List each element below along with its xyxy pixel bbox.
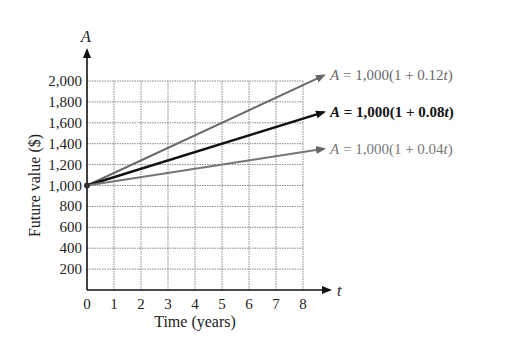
x-axis-label: Time (years) <box>154 313 236 331</box>
y-tick-label: 2,000 <box>48 73 82 89</box>
x-tick-label: 7 <box>272 296 280 312</box>
y-tick-label: 1,600 <box>48 115 82 131</box>
y-tick-label: 1,400 <box>48 136 82 152</box>
x-tick-label: 2 <box>137 296 145 312</box>
x-tick-label: 0 <box>83 296 91 312</box>
y-tick-label: 600 <box>60 219 83 235</box>
series-label: A = 1,000(1 + 0.04t) <box>329 141 453 158</box>
series-label: A = 1,000(1 + 0.08t) <box>329 104 454 121</box>
x-axis-symbol: t <box>337 282 342 299</box>
series-label: A = 1,000(1 + 0.12t) <box>329 67 453 84</box>
x-tick-label: 5 <box>218 296 226 312</box>
y-tick-label: 200 <box>60 261 83 277</box>
y-tick-label: 1,200 <box>48 157 82 173</box>
grid <box>87 81 303 290</box>
x-tick-label: 4 <box>191 296 199 312</box>
y-axis-label: Future value ($) <box>26 134 44 237</box>
chart: 0123456782004006008001,0001,2001,4001,60… <box>0 0 509 353</box>
series-line <box>87 149 324 186</box>
origin-point <box>84 183 90 189</box>
x-tick-label: 1 <box>110 296 118 312</box>
y-tick-label: 1,000 <box>48 178 82 194</box>
x-tick-label: 3 <box>164 296 172 312</box>
y-tick-label: 400 <box>60 240 83 256</box>
series-lines: A = 1,000(1 + 0.12t)A = 1,000(1 + 0.08t)… <box>84 67 454 188</box>
y-axis-symbol: A <box>80 28 91 45</box>
axes <box>87 50 330 290</box>
y-tick-label: 1,800 <box>48 94 82 110</box>
x-tick-label: 6 <box>245 296 253 312</box>
y-tick-label: 800 <box>60 198 83 214</box>
series-line <box>87 75 324 185</box>
x-tick-label: 8 <box>299 296 307 312</box>
